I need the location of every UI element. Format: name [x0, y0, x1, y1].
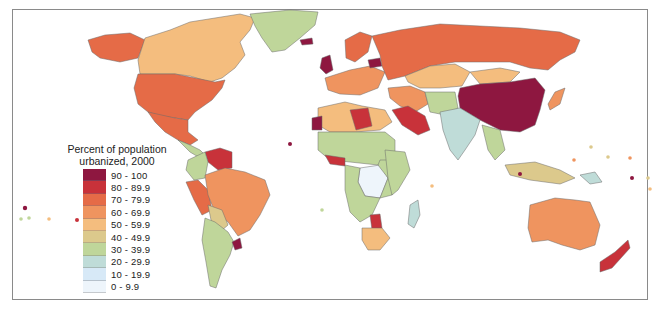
legend-swatch	[83, 268, 106, 280]
island-dot	[288, 142, 292, 146]
legend-row: 70 - 79.9	[83, 194, 172, 206]
island-dot	[628, 156, 632, 160]
south-africa	[362, 228, 390, 250]
legend-row: 10 - 19.9	[83, 268, 172, 280]
argentina-chile	[202, 218, 234, 288]
legend-row: 60 - 69.9	[83, 206, 172, 218]
island-dot	[27, 216, 31, 220]
alaska	[88, 33, 145, 62]
legend-swatch	[83, 281, 106, 293]
legend-title-line2: urbanized, 2000	[62, 155, 172, 167]
island-dot	[320, 208, 324, 212]
legend-swatch	[83, 243, 106, 255]
island-dot	[630, 176, 634, 180]
belarus	[368, 58, 382, 68]
legend-label: 0 - 9.9	[111, 281, 139, 292]
legend-row: 30 - 39.9	[83, 243, 172, 255]
legend-label: 40 - 49.9	[111, 232, 150, 243]
legend-row: 20 - 29.9	[83, 256, 172, 268]
iceland	[300, 38, 313, 45]
madagascar	[408, 200, 420, 228]
island-dot	[648, 187, 652, 191]
botswana	[370, 214, 382, 230]
papua-new-guinea	[580, 172, 602, 184]
colombia	[186, 152, 208, 180]
legend-row: 80 - 89.9	[83, 181, 172, 193]
legend-row: 40 - 49.9	[83, 231, 172, 243]
island-dot	[47, 217, 51, 221]
legend-swatch	[83, 231, 106, 243]
island-dot	[23, 206, 27, 210]
map-legend: Percent of population urbanized, 2000 90…	[62, 143, 172, 293]
island-dot	[518, 172, 522, 176]
japan	[548, 88, 565, 110]
uk	[320, 55, 333, 74]
legend-row: 50 - 59.9	[83, 219, 172, 231]
island-dot	[430, 184, 434, 188]
legend-rows: 90 - 10080 - 89.970 - 79.960 - 69.950 - …	[83, 169, 172, 293]
australia	[528, 198, 600, 250]
legend-row: 90 - 100	[83, 169, 172, 181]
island-dot	[19, 217, 23, 221]
legend-label: 10 - 19.9	[111, 269, 150, 280]
island-dot	[646, 176, 650, 180]
western-sahara	[312, 116, 322, 130]
legend-label: 90 - 100	[111, 170, 147, 181]
scandinavia	[345, 32, 372, 62]
island-dot	[572, 158, 576, 162]
new-zealand	[600, 240, 630, 272]
venezuela-colombia	[205, 148, 232, 170]
greenland	[250, 10, 318, 52]
island-dot	[606, 155, 610, 159]
legend-label: 50 - 59.9	[111, 219, 150, 230]
legend-swatch	[83, 256, 106, 268]
legend-label: 60 - 69.9	[111, 207, 150, 218]
legend-title-line1: Percent of population	[62, 143, 172, 155]
legend-swatch	[83, 169, 106, 181]
island-dot	[589, 145, 593, 149]
saudi-arabia	[392, 106, 430, 135]
legend-label: 20 - 29.9	[111, 256, 150, 267]
legend-label: 30 - 39.9	[111, 244, 150, 255]
legend-row: 0 - 9.9	[83, 281, 172, 293]
legend-label: 80 - 89.9	[111, 182, 150, 193]
canada	[138, 14, 255, 82]
uruguay	[232, 238, 242, 250]
legend-swatch	[83, 206, 106, 218]
legend-swatch	[83, 219, 106, 231]
legend-swatch	[83, 181, 106, 193]
legend-swatch	[83, 194, 106, 206]
legend-label: 70 - 79.9	[111, 194, 150, 205]
west-europe	[325, 66, 385, 95]
indonesia	[505, 162, 575, 184]
